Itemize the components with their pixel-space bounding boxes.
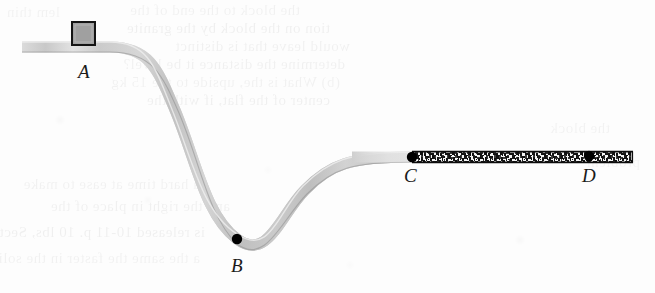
point-label-b: B [231,256,243,275]
point-label-a: A [78,62,90,81]
sliding-block [72,22,95,45]
point-label-c: C [404,166,417,185]
rough-section-c-to-d [412,152,633,163]
point-marker-b [232,234,242,244]
point-label-d: D [582,166,596,185]
track-diagram-svg [0,0,655,293]
physics-track-figure: the block to the end of thetion on the b… [0,0,655,293]
point-marker-d [584,151,594,161]
point-marker-c [407,152,417,162]
rough-surface-fill-overlay [412,152,633,163]
track-fade-before-c [352,152,412,163]
